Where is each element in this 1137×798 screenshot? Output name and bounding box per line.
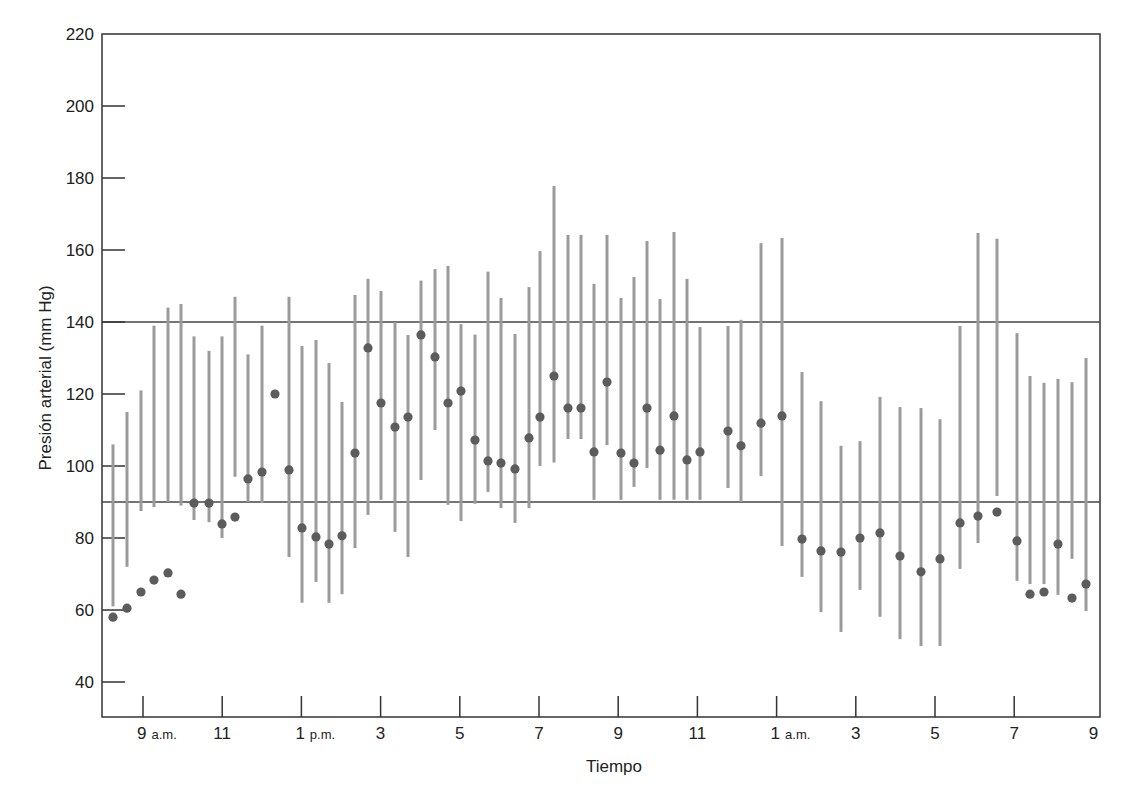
data-point <box>324 540 333 549</box>
data-point <box>563 403 572 412</box>
data-point <box>576 403 585 412</box>
data-point <box>217 519 226 528</box>
data-point <box>629 459 638 468</box>
y-tick-label: 180 <box>66 169 94 188</box>
data-point <box>723 426 732 435</box>
data-point <box>1012 536 1021 545</box>
x-tick-label: 9 <box>613 724 622 743</box>
reference-lines <box>102 322 1100 502</box>
data-point <box>797 534 806 543</box>
data-point <box>895 551 904 560</box>
data-point <box>510 464 519 473</box>
y-tick-label: 160 <box>66 241 94 260</box>
x-tick-label: 5 <box>455 724 464 743</box>
y-tick-label: 220 <box>66 25 94 44</box>
data-point <box>816 546 825 555</box>
data-point <box>736 441 745 450</box>
data-point <box>1081 579 1090 588</box>
data-point <box>602 378 611 387</box>
data-point <box>973 511 982 520</box>
x-tick-label: 7 <box>534 724 543 743</box>
x-tick-label: 9 <box>1089 724 1098 743</box>
x-tick-label: 9a.m. <box>137 724 177 743</box>
data-point <box>163 568 172 577</box>
data-point <box>403 412 412 421</box>
data-point <box>257 468 266 477</box>
data-point <box>122 604 131 613</box>
data-point <box>616 448 625 457</box>
y-tick-label: 200 <box>66 97 94 116</box>
x-tick-label: 3 <box>376 724 385 743</box>
x-axis-title: Tiempo <box>586 757 642 776</box>
data-point <box>483 456 492 465</box>
data-point <box>955 518 964 527</box>
data-point <box>535 412 544 421</box>
data-point <box>108 613 117 622</box>
data-point <box>589 447 598 456</box>
y-tick-label: 40 <box>75 673 94 692</box>
y-axis: 406080100120140160180200220 <box>66 25 125 692</box>
data-point <box>1067 594 1076 603</box>
data-point <box>270 389 279 398</box>
x-tick-label: 7 <box>1009 724 1018 743</box>
data-point <box>284 465 293 474</box>
data-point <box>916 567 925 576</box>
data-point <box>836 547 845 556</box>
data-point <box>549 371 558 380</box>
data-point <box>992 507 1001 516</box>
data-point <box>935 554 944 563</box>
data-point <box>390 423 399 432</box>
y-tick-label: 120 <box>66 385 94 404</box>
data-point <box>204 498 213 507</box>
data-point <box>1025 590 1034 599</box>
x-axis: 9a.m.111p.m.3579111a.m.3579 <box>137 696 1098 743</box>
x-tick-label: 5 <box>930 724 939 743</box>
data-point <box>189 498 198 507</box>
y-tick-label: 80 <box>75 529 94 548</box>
data-point <box>350 448 359 457</box>
x-tick-label: 11 <box>689 724 707 743</box>
data-point <box>430 352 439 361</box>
x-tick-label: 11 <box>213 724 231 743</box>
x-tick-label: 3 <box>851 724 860 743</box>
y-tick-label: 60 <box>75 601 94 620</box>
data-point <box>470 435 479 444</box>
data-point <box>1053 540 1062 549</box>
data-point <box>756 419 765 428</box>
y-tick-label: 140 <box>66 313 94 332</box>
plot-frame <box>102 34 1100 717</box>
data-point <box>777 411 786 420</box>
data-point <box>311 532 320 541</box>
data-point <box>524 433 533 442</box>
data-point <box>337 531 346 540</box>
x-tick-label: 1a.m. <box>771 724 811 743</box>
blood-pressure-chart: 406080100120140160180200220 9a.m.111p.m.… <box>0 0 1137 798</box>
data-point <box>456 387 465 396</box>
data-dots <box>108 330 1090 621</box>
data-point <box>695 447 704 456</box>
plot-border <box>102 34 1100 717</box>
data-point <box>297 523 306 532</box>
data-point <box>176 590 185 599</box>
data-point <box>642 403 651 412</box>
x-tick-label: 1p.m. <box>295 724 335 743</box>
data-point <box>669 411 678 420</box>
data-point <box>655 446 664 455</box>
data-point <box>496 459 505 468</box>
data-point <box>363 343 372 352</box>
data-point <box>682 455 691 464</box>
data-point <box>1039 587 1048 596</box>
data-point <box>243 474 252 483</box>
data-point <box>875 528 884 537</box>
y-tick-label: 100 <box>66 457 94 476</box>
range-bars <box>113 186 1086 646</box>
data-point <box>149 576 158 585</box>
data-point <box>230 513 239 522</box>
data-point <box>416 330 425 339</box>
y-axis-title: Presión arterial (mm Hg) <box>36 285 55 470</box>
data-point <box>443 398 452 407</box>
data-point <box>376 398 385 407</box>
data-point <box>136 587 145 596</box>
data-point <box>855 533 864 542</box>
